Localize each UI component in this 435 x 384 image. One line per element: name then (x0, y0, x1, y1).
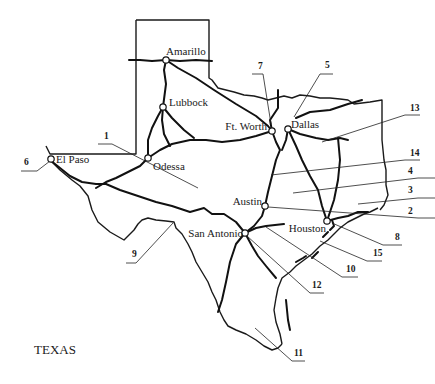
numbered-labels: 123456789101112131415 (24, 60, 420, 358)
city-label: Houston (289, 222, 327, 234)
feature-number-label: 11 (294, 348, 303, 358)
city-marker-icon (262, 203, 268, 209)
city-marker-icon (163, 57, 169, 63)
city-label: Austin (233, 195, 263, 207)
city-marker-icon (160, 104, 166, 110)
city-marker-icon (48, 156, 54, 162)
city-label: Dallas (291, 118, 319, 130)
city-label: Amarillo (166, 45, 206, 57)
feature-number-label: 1 (104, 131, 109, 141)
city-label: Odessa (153, 160, 185, 172)
feature-number-label: 5 (325, 60, 330, 70)
feature-number-label: 6 (24, 157, 29, 167)
feature-number-label: 8 (395, 232, 400, 242)
city-marker-icon (269, 128, 275, 134)
map-title: TEXAS (34, 342, 76, 357)
city-marker-icon (145, 155, 151, 161)
feature-number-label: 7 (258, 61, 263, 71)
feature-number-label: 12 (312, 280, 322, 290)
leader-line (266, 227, 358, 277)
feature-number-label: 10 (346, 264, 356, 274)
feature-number-label: 9 (132, 249, 137, 259)
city-label: San Antonio (188, 227, 243, 239)
feature-number-label: 3 (408, 185, 413, 195)
feature-number-label: 13 (410, 103, 420, 113)
feature-number-label: 4 (408, 166, 413, 176)
city-label: Lubbock (169, 96, 209, 108)
leader-line (271, 160, 420, 175)
city-label: El Paso (56, 153, 90, 165)
leader-line (358, 198, 435, 204)
feature-number-label: 15 (373, 248, 383, 258)
leader-line (252, 74, 271, 124)
feature-number-label: 14 (410, 148, 420, 158)
city-label: Ft. Worth (225, 120, 267, 132)
feature-number-label: 2 (408, 206, 413, 216)
texas-map: AmarilloLubbockOdessaEl PasoFt. WorthDal… (0, 0, 435, 384)
